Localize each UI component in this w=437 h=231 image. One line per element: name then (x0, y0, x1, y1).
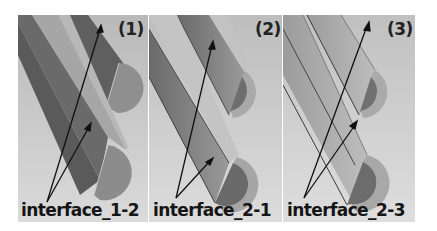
panel-1-rendering (18, 15, 148, 222)
panel-3-label: (3) (387, 19, 413, 39)
panel-2: (2) interface_2-1 (149, 15, 282, 222)
panel-1-label: (1) (118, 19, 144, 39)
panel-2-interface-label: interface_2-1 (153, 200, 271, 220)
panel-1: (1) interface_1-2 (18, 15, 148, 222)
figure: (1) interface_1-2 (0, 0, 437, 231)
panel-1-interface-label: interface_1-2 (21, 200, 139, 220)
panel-3: (3) interface_2-3 (283, 15, 415, 222)
panel-3-rendering (283, 15, 415, 222)
panel-2-rendering (149, 15, 282, 222)
panel-2-label: (2) (255, 19, 281, 39)
panel-3-interface-label: interface_2-3 (287, 200, 405, 220)
